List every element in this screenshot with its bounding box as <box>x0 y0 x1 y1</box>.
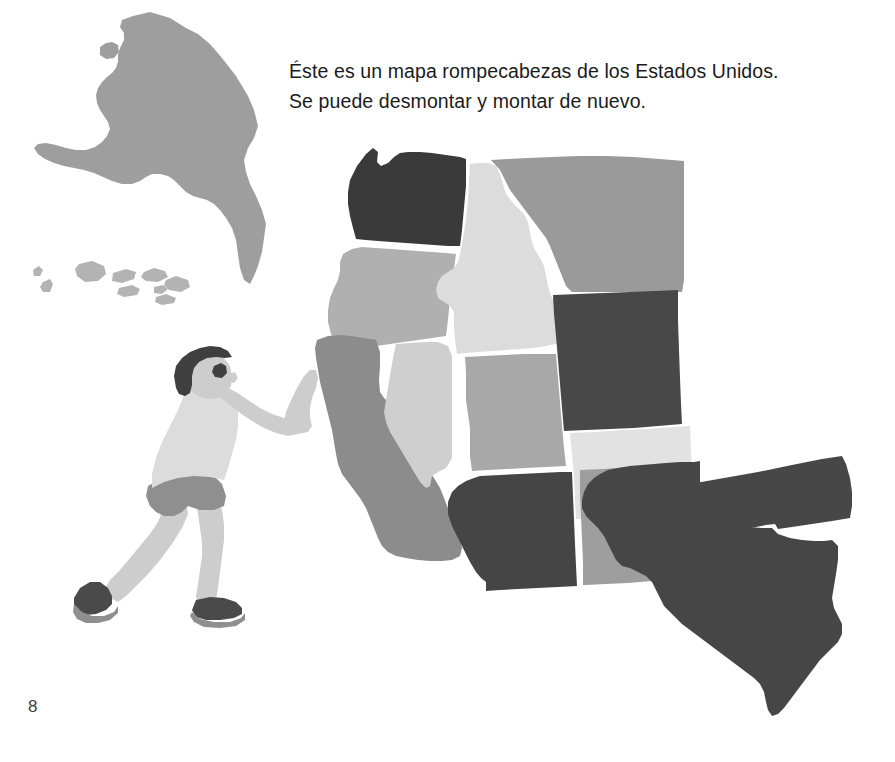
boy-front-shoe-sole <box>190 612 245 628</box>
usa-puzzle-map <box>33 12 852 716</box>
boy-hand <box>284 370 318 434</box>
map-piece-oregon <box>328 247 456 352</box>
map-piece-hawaii <box>33 261 190 305</box>
map-piece-washington <box>348 148 466 246</box>
map-piece-wyoming <box>553 290 682 431</box>
boy-back-shoe <box>74 582 112 615</box>
boy-arm <box>213 386 300 436</box>
boy-front-shoe <box>192 597 242 620</box>
map-piece-idaho <box>436 163 564 354</box>
map-piece-alaska <box>34 12 266 284</box>
map-piece-new-mexico <box>580 463 698 585</box>
boy-back-shoe-sole <box>73 604 118 623</box>
boy-head <box>186 354 232 399</box>
map-piece-montana <box>491 156 684 292</box>
boy-shorts <box>146 473 226 516</box>
boy-ear <box>212 363 227 378</box>
boy-back-leg <box>104 500 188 602</box>
map-piece-nevada <box>384 342 452 488</box>
map-piece-utah <box>465 354 566 471</box>
boy-figure <box>73 346 318 628</box>
map-piece-texas <box>582 461 842 716</box>
book-page: Éste es un mapa rompecabezas de los Esta… <box>0 0 895 762</box>
boy-shirt <box>152 384 238 488</box>
boy-front-leg <box>196 498 224 610</box>
page-caption: Éste es un mapa rompecabezas de los Esta… <box>289 56 849 116</box>
boy-hair <box>174 346 232 396</box>
map-piece-oklahoma <box>690 456 852 532</box>
page-number: 8 <box>28 697 37 717</box>
map-piece-california <box>315 335 462 561</box>
map-piece-arizona <box>448 472 577 591</box>
map-piece-colorado <box>570 426 692 519</box>
boy-nose <box>228 372 238 383</box>
